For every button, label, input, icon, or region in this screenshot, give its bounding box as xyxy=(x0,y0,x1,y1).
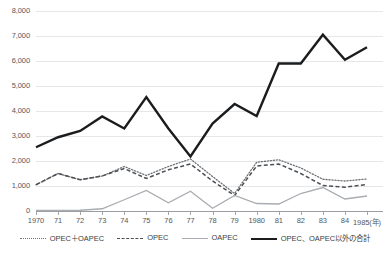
chart-legend: OPEC＋OAPECOPECOAPECOPEC、OAPEC以外の合計 xyxy=(0,232,390,243)
legend-item[interactable]: OAPEC xyxy=(182,233,238,242)
legend-item-label: OAPEC xyxy=(212,233,238,242)
y-axis-tick-label: 1,000 xyxy=(0,181,30,190)
legend-swatch-solid-light-icon xyxy=(182,235,208,241)
series-line-3 xyxy=(36,35,367,157)
line-chart: 01,0002,0003,0004,0005,0006,0007,0008,00… xyxy=(0,0,390,257)
y-axis-tick-label: 8,000 xyxy=(0,6,30,15)
legend-swatch-dotted-icon xyxy=(20,235,46,241)
grid-lines xyxy=(36,11,383,211)
legend-item[interactable]: OPEC、OAPEC以外の合計 xyxy=(251,232,371,243)
legend-item[interactable]: OPEC＋OAPEC xyxy=(20,232,105,243)
y-axis-tick-label: 4,000 xyxy=(0,106,30,115)
y-axis-tick-label: 3,000 xyxy=(0,131,30,140)
y-axis-tick-label: 7,000 xyxy=(0,31,30,40)
x-axis-tick-label: 1985(年) xyxy=(347,216,387,227)
legend-item-label: OPEC xyxy=(147,233,168,242)
y-axis-tick-label: 0 xyxy=(0,206,30,215)
y-axis-tick-label: 2,000 xyxy=(0,156,30,165)
y-axis-tick-label: 5,000 xyxy=(0,81,30,90)
legend-item-label: OPEC＋OAPEC xyxy=(50,232,105,243)
legend-item-label: OPEC、OAPEC以外の合計 xyxy=(281,232,371,243)
series-line-1 xyxy=(36,164,367,196)
series-line-0 xyxy=(36,159,367,194)
legend-item[interactable]: OPEC xyxy=(117,233,168,242)
y-axis-tick-label: 6,000 xyxy=(0,56,30,65)
chart-plot-area xyxy=(0,0,390,232)
legend-swatch-solid-thick-icon xyxy=(251,235,277,241)
series-line-2 xyxy=(36,188,367,211)
legend-swatch-dashed-icon xyxy=(117,235,143,241)
x-axis-ticks xyxy=(37,211,368,215)
